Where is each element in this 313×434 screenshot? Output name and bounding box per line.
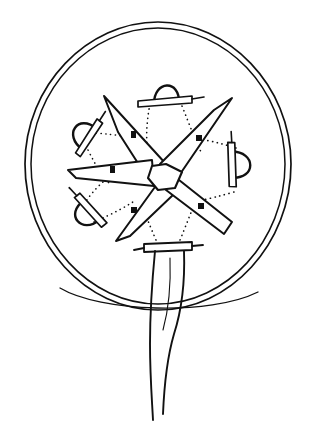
illustration-canvas: Hand-drawn botanical star flower in circ…	[0, 0, 313, 434]
background	[0, 0, 313, 434]
ray-accent-mark-lower-left	[131, 207, 137, 213]
stamen-right-tail	[231, 132, 232, 143]
ray-accent-mark-lower-right	[198, 203, 204, 209]
ovary-disc-right-tip	[192, 245, 203, 246]
ray-accent-mark-left	[110, 166, 115, 173]
ray-accent-mark-upper-left	[131, 131, 136, 138]
ray-accent-mark-upper-right	[196, 135, 202, 141]
ovary-disc	[134, 242, 203, 252]
line-art-illustration	[0, 0, 313, 434]
